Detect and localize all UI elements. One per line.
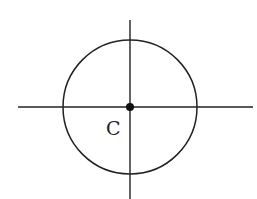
- center-point: [126, 103, 134, 111]
- center-label: C: [106, 117, 121, 139]
- circle-diagram: C: [0, 0, 257, 199]
